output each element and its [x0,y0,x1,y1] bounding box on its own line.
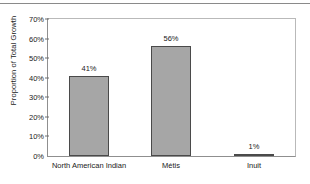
y-tick-label-30: 30% [29,93,48,102]
x-category-label-metis: Métis [162,161,180,170]
bar-inuit[interactable] [234,154,274,156]
y-tick-label-50: 50% [29,54,48,63]
y-tick-label-60: 60% [29,34,48,43]
top-divider-rule [0,3,310,4]
bar-metis[interactable] [151,46,191,156]
y-tick-label-20: 20% [29,112,48,121]
bar-north-american-indian[interactable] [69,76,109,156]
x-category-label-north-american-indian: North American Indian [52,161,126,170]
y-tick-label-70: 70% [29,15,48,24]
bar-value-label-metis: 56% [163,34,178,43]
bar-value-label-north-american-indian: 41% [81,64,96,73]
bar-value-label-inuit: 1% [249,142,260,151]
chart-figure: Proportion of Total Growth 70% 60% 50% 4… [0,0,310,184]
y-tick-label-0: 0% [33,152,48,161]
y-tick-label-10: 10% [29,132,48,141]
y-tick-label-40: 40% [29,73,48,82]
x-category-label-inuit: Inuit [247,161,261,170]
plot-area: 70% 60% 50% 40% 30% 20% 10% 0% 41% 56% 1… [47,18,296,157]
y-axis-title: Proportion of Total Growth [9,0,18,126]
